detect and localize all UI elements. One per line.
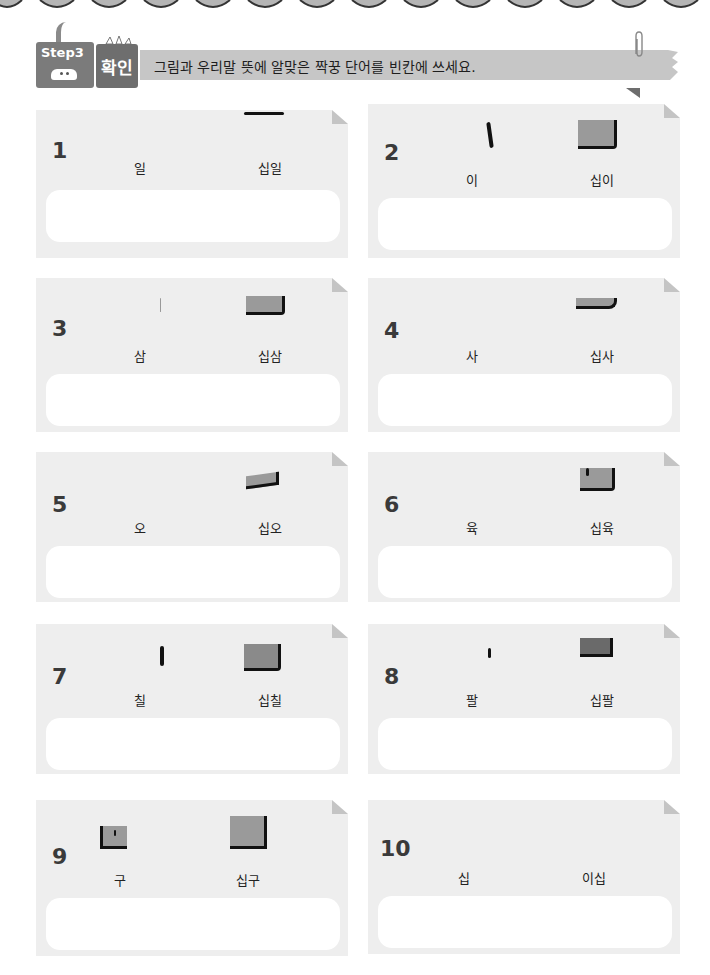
page-fold-icon	[664, 800, 680, 814]
exercise-card-6: 6 육 십육	[368, 452, 680, 602]
critter-icon	[51, 69, 77, 80]
card-number: 2	[384, 140, 399, 165]
illustration	[580, 638, 613, 657]
answer-input[interactable]	[378, 198, 672, 250]
illustration	[244, 112, 284, 115]
illustration	[160, 298, 161, 312]
confirm-badge: 확인	[96, 44, 138, 88]
word-left: 구	[114, 870, 126, 889]
word-right: 십이	[590, 170, 614, 189]
banner-fold	[626, 88, 640, 98]
word-right: 십육	[590, 518, 614, 537]
page-fold-icon	[332, 800, 348, 814]
word-left: 십	[458, 868, 470, 887]
answer-input[interactable]	[378, 546, 672, 598]
illustration	[576, 298, 617, 309]
answer-input[interactable]	[46, 898, 340, 950]
word-left: 사	[466, 346, 478, 365]
illustration	[586, 468, 589, 476]
answer-input[interactable]	[378, 718, 672, 770]
scallop-border	[0, 0, 710, 10]
word-left: 이	[466, 170, 478, 189]
answer-input[interactable]	[46, 190, 340, 242]
word-right: 십일	[258, 158, 282, 177]
confirm-label: 확인	[96, 54, 138, 79]
exercise-card-10: 10 십 이십	[368, 800, 680, 954]
illustration	[578, 120, 617, 149]
word-right: 십구	[236, 870, 260, 889]
word-left: 오	[134, 518, 146, 537]
word-right: 십칠	[258, 690, 282, 709]
card-number: 6	[384, 492, 399, 517]
section-header: Step3 확인 그림과 우리말 뜻에 알맞은 짝꿍 단어를 빈칸에 쓰세요.	[36, 22, 676, 92]
horns-icon	[104, 36, 132, 44]
exercise-card-4: 4 사 십사	[368, 278, 680, 432]
card-number: 3	[52, 316, 67, 341]
illustration	[246, 472, 279, 490]
instruction-text: 그림과 우리말 뜻에 알맞은 짝꿍 단어를 빈칸에 쓰세요.	[154, 56, 476, 76]
illustration	[114, 830, 116, 836]
exercise-card-8: 8 팔 십팔	[368, 624, 680, 774]
word-right: 십삼	[258, 346, 282, 365]
answer-input[interactable]	[46, 546, 340, 598]
card-number: 1	[52, 138, 67, 163]
card-number: 4	[384, 318, 399, 343]
illustration	[160, 646, 164, 666]
exercise-card-9: 9 구 십구	[36, 800, 348, 956]
page-fold-icon	[664, 104, 680, 118]
card-number: 5	[52, 492, 67, 517]
paperclip-icon	[632, 30, 646, 58]
exercise-card-7: 7 칠 십칠	[36, 624, 348, 774]
card-number: 9	[52, 844, 67, 869]
word-left: 팔	[466, 690, 478, 709]
exercise-card-5: 5 오 십오	[36, 452, 348, 602]
page-fold-icon	[332, 278, 348, 292]
illustration	[230, 816, 267, 849]
page-fold-icon	[664, 624, 680, 638]
tail-decoration	[56, 22, 71, 44]
illustration	[486, 122, 494, 148]
answer-input[interactable]	[46, 718, 340, 770]
exercise-card-3: 3 삼 십삼	[36, 278, 348, 432]
word-right: 십팔	[590, 690, 614, 709]
word-left: 일	[134, 158, 146, 177]
answer-input[interactable]	[46, 374, 340, 426]
word-right: 이십	[582, 868, 606, 887]
page-fold-icon	[664, 452, 680, 466]
word-right: 십오	[258, 518, 282, 537]
step-badge: Step3	[36, 42, 94, 88]
card-number: 8	[384, 664, 399, 689]
page-fold-icon	[332, 110, 348, 124]
word-left: 삼	[134, 346, 146, 365]
banner-torn-edge	[668, 50, 680, 80]
card-number: 10	[380, 836, 411, 861]
illustration	[246, 296, 285, 315]
card-number: 7	[52, 664, 67, 689]
word-right: 십사	[590, 346, 614, 365]
page-fold-icon	[332, 452, 348, 466]
answer-input[interactable]	[378, 374, 672, 426]
word-left: 칠	[134, 690, 146, 709]
instruction-banner: 그림과 우리말 뜻에 알맞은 짝꿍 단어를 빈칸에 쓰세요.	[140, 50, 668, 80]
illustration	[488, 648, 491, 658]
exercise-card-1: 1 일 십일	[36, 110, 348, 258]
page-fold-icon	[332, 624, 348, 638]
exercise-card-2: 2 이 십이	[368, 104, 680, 258]
answer-input[interactable]	[378, 896, 672, 948]
step-label: Step3	[41, 45, 84, 60]
illustration	[244, 644, 281, 671]
word-left: 육	[466, 518, 478, 537]
page-fold-icon	[664, 278, 680, 292]
